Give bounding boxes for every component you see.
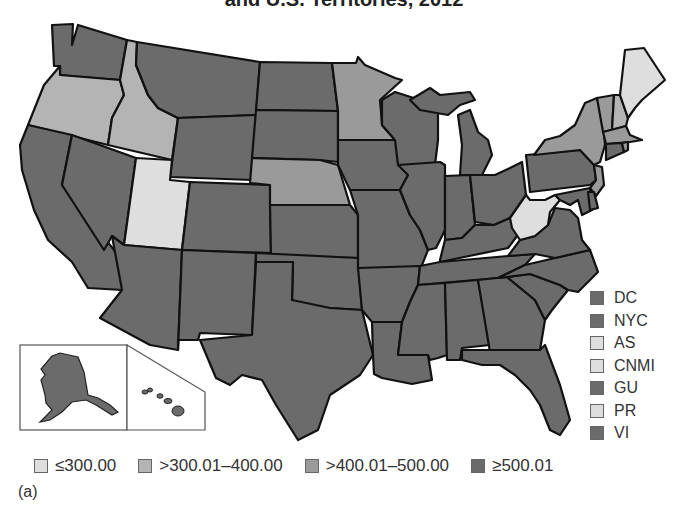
legend-item-vi: VI xyxy=(590,422,655,445)
legend-label: AS xyxy=(614,334,635,352)
us-choropleth-map xyxy=(0,0,688,519)
state-nd[interactable] xyxy=(256,62,338,111)
legend-swatch xyxy=(590,291,604,305)
state-fa[interactable] xyxy=(462,345,570,435)
state-wy[interactable] xyxy=(170,115,256,180)
legend-item-cnmi: CNMI xyxy=(590,355,655,378)
legend-item-as: AS xyxy=(590,332,655,355)
legend-bin-le300: ≤300.00 xyxy=(34,456,116,476)
legend-swatch xyxy=(590,314,604,328)
legend-swatch xyxy=(590,381,604,395)
legend-label: GU xyxy=(614,379,638,397)
legend-label: VI xyxy=(614,424,629,442)
legend-label: DC xyxy=(614,289,637,307)
legend-bin-400-500: >400.01–500.00 xyxy=(305,456,449,476)
territory-legend: DC NYC AS CNMI GU PR VI xyxy=(590,287,655,445)
legend-swatch xyxy=(34,459,48,473)
legend-swatch xyxy=(590,404,604,418)
legend-swatch xyxy=(305,459,319,473)
legend-item-pr: PR xyxy=(590,400,655,423)
legend-label: ≥500.01 xyxy=(492,456,553,476)
state-ct[interactable] xyxy=(606,143,624,160)
state-me[interactable] xyxy=(620,48,665,118)
legend-bin-ge500: ≥500.01 xyxy=(471,456,553,476)
bin-legend: ≤300.00 >300.01–400.00 >400.01–500.00 ≥5… xyxy=(34,456,575,476)
state-co[interactable] xyxy=(182,182,271,253)
figure-caption: (a) xyxy=(18,483,38,501)
legend-item-gu: GU xyxy=(590,377,655,400)
legend-label: CNMI xyxy=(614,357,655,375)
legend-bin-300-400: >300.01–400.00 xyxy=(138,456,282,476)
state-ri[interactable] xyxy=(622,142,628,152)
legend-label: >400.01–500.00 xyxy=(326,456,449,476)
state-wa[interactable] xyxy=(52,24,127,80)
legend-swatch xyxy=(138,459,152,473)
inset-alaska-hawaii xyxy=(20,345,205,430)
legend-item-nyc: NYC xyxy=(590,310,655,333)
legend-label: PR xyxy=(614,402,636,420)
legend-swatch xyxy=(590,426,604,440)
legend-item-dc: DC xyxy=(590,287,655,310)
state-ks[interactable] xyxy=(270,205,358,258)
legend-label: NYC xyxy=(614,312,648,330)
legend-label: >300.01–400.00 xyxy=(159,456,282,476)
legend-swatch xyxy=(590,336,604,350)
legend-swatch xyxy=(590,359,604,373)
legend-swatch xyxy=(471,459,485,473)
state-sd[interactable] xyxy=(252,110,338,162)
legend-label: ≤300.00 xyxy=(55,456,116,476)
